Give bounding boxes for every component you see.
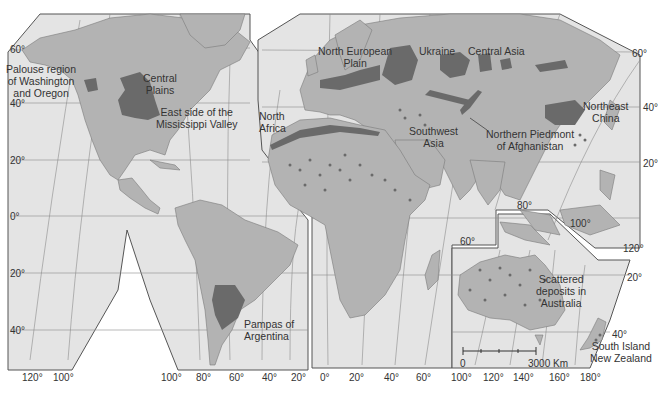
lon-180: 180° [580, 372, 601, 383]
lon-40w: 40° [262, 372, 277, 383]
label-new-zealand: South Island New Zealand [590, 340, 652, 364]
label-pampas: Pampas of Argentina [244, 318, 294, 342]
label-line: Palouse region [6, 63, 76, 75]
lon-120w: 120° [22, 372, 43, 383]
lon-20w: 20° [291, 372, 306, 383]
label-line: Pampas of [244, 318, 294, 330]
label-line: Plain [318, 57, 392, 69]
label-line: of Washington [6, 75, 76, 87]
lat-left-60: 60° [10, 44, 25, 55]
label-line: New Zealand [590, 352, 652, 364]
lon-100e-interior: 100° [570, 218, 591, 229]
label-afghanistan: Northern Piedmont of Afghanistan [486, 128, 574, 152]
label-line: South Island [590, 340, 652, 352]
label-line: China [583, 112, 629, 124]
label-line: Asia [409, 137, 458, 149]
lat-left-40s: 40° [10, 325, 25, 336]
lon-140e: 140° [513, 372, 534, 383]
scale-start-label: 0 [460, 358, 466, 369]
lon-160e: 160° [549, 372, 570, 383]
label-north-africa: North Africa [259, 110, 286, 134]
lat-left-40: 40° [10, 98, 25, 109]
lat-left-20n: 20° [10, 155, 25, 166]
label-line: Plains [143, 84, 177, 96]
label-line: Scattered [536, 273, 586, 285]
label-northeast-china: Northeast China [583, 100, 629, 124]
label-ukraine: Ukraine [419, 45, 455, 57]
lat-left-0: 0° [10, 211, 20, 222]
label-palouse: Palouse region of Washington and Oregon [6, 63, 76, 99]
lon-100w-b: 100° [161, 372, 182, 383]
lon-60w: 60° [229, 372, 244, 383]
lon-100e: 100° [451, 372, 472, 383]
lat-left-20s: 20° [10, 268, 25, 279]
lat-right-20n: 20° [643, 158, 658, 169]
lat-right-40: 40° [643, 102, 658, 113]
label-line: of Afghanistan [486, 140, 574, 152]
loess-world-map: Palouse region of Washington and Oregon … [0, 0, 668, 398]
label-central-plains: Central Plains [143, 72, 177, 96]
lon-100w-a: 100° [53, 372, 74, 383]
lon-40e: 40° [384, 372, 399, 383]
lat-right-20s: 20° [627, 272, 642, 283]
lon-120e: 120° [483, 372, 504, 383]
lon-80e-interior: 80° [517, 200, 532, 211]
label-line: Northeast [583, 100, 629, 112]
label-north-european-plain: North European Plain [318, 45, 392, 69]
label-line: Northern Piedmont [486, 128, 574, 140]
label-central-asia: Central Asia [468, 45, 525, 57]
label-line: Australia [536, 297, 586, 309]
label-line: Southwest [409, 125, 458, 137]
lon-60e: 60° [416, 372, 431, 383]
label-line: Central [143, 72, 177, 84]
label-southwest-asia: Southwest Asia [409, 125, 458, 149]
lon-60e-interior: 60° [460, 236, 475, 247]
scale-end-label: 3000 Km [528, 358, 568, 369]
label-line: North [259, 110, 286, 122]
lon-20e: 20° [349, 372, 364, 383]
label-line: deposits in [536, 285, 586, 297]
lat-right-60: 60° [632, 48, 647, 59]
label-line: North European [318, 45, 392, 57]
label-line: Africa [259, 122, 286, 134]
label-line: Mississippi Valley [156, 118, 238, 130]
label-mississippi: East side of the Mississippi Valley [156, 106, 238, 130]
label-line: Central Asia [468, 45, 525, 57]
label-australia: Scattered deposits in Australia [536, 273, 586, 309]
lat-right-40s: 40° [612, 329, 627, 340]
lon-0: 0° [320, 372, 330, 383]
lon-80w: 80° [196, 372, 211, 383]
lon-120e-interior: 120° [623, 243, 644, 254]
label-line: Ukraine [419, 45, 455, 57]
label-line: Argentina [244, 330, 294, 342]
label-line: East side of the [156, 106, 238, 118]
